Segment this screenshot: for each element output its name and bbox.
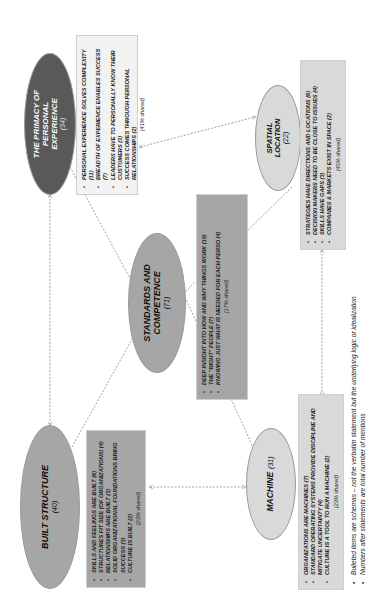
schema-item: Personal experience solves complexity (1… bbox=[81, 41, 95, 180]
schema-item: Strategies have directions and locations… bbox=[305, 66, 312, 235]
node-title: STANDARDS AND COMPETENCE bbox=[143, 263, 163, 343]
node-count: (40) bbox=[51, 501, 59, 513]
node-count: (31) bbox=[267, 456, 275, 468]
schema-item: Culture is a tool to run a machine (2) bbox=[324, 400, 331, 575]
schema-box-personal-experience: Personal experience solves complexity (1… bbox=[76, 35, 138, 195]
schema-item: Deep insight into how and why things wor… bbox=[201, 200, 208, 385]
shared-percent: (45% shared) bbox=[335, 66, 342, 243]
schema-item: Culture is built (2) bbox=[127, 436, 134, 573]
schema-item: Success comes through personal relations… bbox=[124, 41, 138, 180]
node-standards-competence: STANDARDS AND COMPETENCE (71) bbox=[128, 233, 186, 373]
schema-item: Decision makers need to be close to issu… bbox=[312, 66, 319, 235]
footnote-item: Bulleted items are schemas – not the ver… bbox=[350, 185, 359, 575]
schema-item: Structures fit size (of organizations) (… bbox=[98, 436, 105, 573]
schema-box-machine: Organizations are machines (7) Standard … bbox=[298, 394, 344, 590]
schema-item: Knowing just what is needed for each per… bbox=[215, 200, 222, 385]
node-machine: MACHINE (31) bbox=[246, 428, 296, 540]
schema-box-standards-competence: Deep insight into how and why things wor… bbox=[196, 194, 248, 400]
schema-item: Solid organizational foundations bring s… bbox=[112, 436, 126, 573]
footnotes: Bulleted items are schemas – not the ver… bbox=[350, 185, 368, 585]
shared-percent: (41% shared) bbox=[139, 41, 146, 188]
shared-percent: (23% shared) bbox=[333, 400, 340, 583]
schema-item: Skills have gaps (3) bbox=[319, 66, 326, 235]
schema-item: Standard operating systems provide disci… bbox=[310, 400, 324, 575]
schema-item: Organizations are machines (7) bbox=[303, 400, 310, 575]
schema-diagram: THE PRIMACY OF PERSONAL EXPERIENCE (34) … bbox=[0, 0, 374, 597]
node-title: THE PRIMACY OF PERSONAL EXPERIENCE bbox=[33, 79, 59, 169]
schema-item: The "right" people (7) bbox=[208, 200, 215, 385]
schema-box-spatial-location: Strategies have directions and locations… bbox=[300, 60, 346, 250]
node-title: BUILT STRUCTURE bbox=[41, 465, 51, 549]
node-built-structure: BUILT STRUCTURE (40) bbox=[20, 425, 80, 589]
schema-box-built-structure: Skills and feelings are built (6) Struct… bbox=[86, 430, 146, 588]
schema-item: Companies & markets exist in space (2) bbox=[326, 66, 333, 235]
shared-percent: (17% shared) bbox=[223, 200, 230, 393]
schema-item: Breadth of experience enables success (7… bbox=[95, 41, 109, 180]
shared-percent: (23% shared) bbox=[135, 436, 142, 581]
schema-item: Skills and feelings are built (6) bbox=[91, 436, 98, 573]
node-title: SPATIAL LOCATION bbox=[266, 108, 283, 168]
schema-item: Relationships are built (3) bbox=[105, 436, 112, 573]
node-spatial-location: SPATIAL LOCATION (22) bbox=[255, 85, 301, 191]
node-count: (71) bbox=[163, 297, 171, 309]
node-personal-experience: THE PRIMACY OF PERSONAL EXPERIENCE (34) bbox=[24, 53, 76, 195]
node-title: MACHINE bbox=[266, 472, 275, 512]
node-count: (22) bbox=[282, 132, 290, 144]
node-count: (34) bbox=[59, 118, 67, 130]
schema-item: Leaders have to personally know their cu… bbox=[110, 41, 124, 180]
footnote-item: Numbers after statements are total numbe… bbox=[359, 185, 368, 575]
